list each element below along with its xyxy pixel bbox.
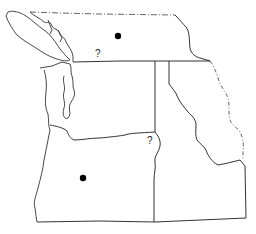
northern-boundary [30,12,175,15]
vancouver-island [6,11,70,61]
location-dot-south [80,175,86,181]
oregon-washington-border [50,125,155,140]
outline-map [0,0,256,234]
oregon-idaho-border [154,132,160,222]
uncertain-marker-east: ? [147,136,153,146]
northern-east-boundary [175,15,210,61]
uncertain-marker-north: ? [95,49,101,59]
idaho-montana-boundary [210,61,243,160]
southern-border [37,218,246,222]
location-dot-north [115,33,121,39]
puget-sound [40,62,75,118]
inlet [48,20,52,34]
pacific-coastline [34,70,50,222]
eastern-boundary [240,160,246,218]
inlet [58,30,62,42]
washington-north-border [73,61,210,62]
